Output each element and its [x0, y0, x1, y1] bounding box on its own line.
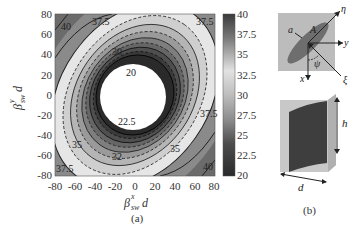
contour-label: 35: [170, 143, 180, 154]
x-axis-label: β x sw d: [123, 192, 149, 212]
svg-text:y: y: [343, 37, 349, 48]
svg-text:35: 35: [237, 48, 249, 60]
contour-label: 20: [126, 67, 136, 78]
y-axis-label: β y sw d: [7, 85, 27, 111]
svg-text:-20: -20: [108, 180, 123, 192]
svg-text:30: 30: [237, 89, 249, 101]
svg-text:-40: -40: [88, 180, 103, 192]
contour-label: 40: [61, 21, 71, 32]
svg-text:-80: -80: [48, 180, 63, 192]
cylinder-diagram: h d (b): [280, 94, 348, 217]
svg-text:25: 25: [237, 129, 249, 141]
svg-text:60: 60: [190, 180, 202, 192]
svg-text:40: 40: [41, 48, 53, 60]
svg-text:0: 0: [47, 89, 53, 101]
svg-text:ψ: ψ: [314, 58, 321, 69]
panel-label-a: (a): [131, 212, 144, 225]
svg-text:40: 40: [237, 8, 249, 20]
svg-text:-60: -60: [68, 180, 83, 192]
svg-text:60: 60: [41, 28, 53, 40]
panel-label-b: (b): [303, 204, 316, 217]
svg-text:-60: -60: [37, 149, 52, 161]
svg-text:a: a: [288, 24, 293, 35]
svg-text:20: 20: [237, 169, 249, 181]
svg-text:20: 20: [41, 69, 53, 81]
svg-text:sw: sw: [18, 94, 27, 103]
svg-text:ξ: ξ: [343, 74, 348, 86]
svg-text:x: x: [130, 192, 135, 201]
svg-text:A: A: [309, 24, 317, 35]
svg-text:40: 40: [170, 180, 182, 192]
contour-label: 37.5: [200, 108, 218, 119]
y-axis-ticks: 80 60 40 20 0 -20 -40 -60 -80: [37, 8, 52, 181]
svg-text:η: η: [341, 3, 346, 14]
contour-label: 32: [112, 151, 122, 162]
svg-text:22.5: 22.5: [237, 149, 257, 161]
ellipse-diagram: η a A y x ψ ξ: [278, 3, 349, 86]
svg-text:d: d: [298, 181, 304, 193]
figure: 20 22.5 30 32 35 35 37.5 37.5 37.5 37.5 …: [0, 0, 358, 230]
svg-text:-40: -40: [37, 129, 52, 141]
svg-text:y: y: [7, 99, 16, 104]
svg-text:sw: sw: [131, 203, 140, 212]
contour-label: 37.5: [92, 16, 110, 27]
colorbar-ticks: 40 37.5 35 32.5 30 27.5 25 22.5 20: [237, 8, 257, 181]
x-axis-ticks: -80 -60 -40 -20 0 20 40 60 80: [48, 180, 220, 192]
svg-text:0: 0: [132, 180, 138, 192]
svg-text:d: d: [142, 196, 149, 210]
svg-text:β: β: [11, 104, 25, 111]
contour-label: 40: [203, 161, 213, 172]
contour-label: 22.5: [118, 116, 136, 127]
svg-text:h: h: [342, 117, 348, 129]
svg-text:32.5: 32.5: [237, 69, 257, 81]
svg-text:37.5: 37.5: [237, 28, 257, 40]
contour-label: 35: [72, 139, 82, 150]
contour-label: 37.5: [196, 16, 214, 27]
svg-text:80: 80: [41, 8, 53, 20]
svg-text:x: x: [299, 73, 305, 84]
svg-text:20: 20: [150, 180, 162, 192]
svg-text:d: d: [11, 85, 25, 92]
svg-text:27.5: 27.5: [237, 109, 257, 121]
contour-label: 30: [112, 46, 122, 57]
colorbar: [223, 14, 235, 176]
svg-text:80: 80: [209, 180, 221, 192]
svg-text:β: β: [123, 196, 130, 210]
contour-label: 37.5: [56, 163, 74, 174]
svg-text:-20: -20: [37, 109, 52, 121]
